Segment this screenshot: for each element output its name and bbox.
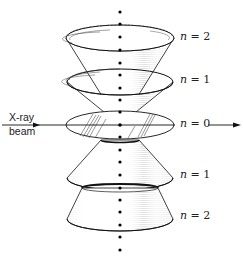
order-value: 2 [203,209,210,222]
lower-cone-n1 [67,140,173,190]
order-value: 0 [203,117,210,130]
order-label-bottom-n1: n = 1 [180,168,210,181]
xray-beam-label: X-ray beam [9,112,35,137]
order-value: 1 [203,168,210,181]
beam-label-line2: beam [9,126,35,137]
beam-label-line1: X-ray [9,112,35,123]
order-label-bottom-n2: n = 2 [180,209,210,222]
order-label-top-n2: n = 2 [180,30,210,43]
order-label-top-n1: n = 1 [180,73,210,86]
order-label-n0: n = 0 [180,117,210,130]
order-value: 2 [203,30,210,43]
order-value: 1 [203,73,210,86]
